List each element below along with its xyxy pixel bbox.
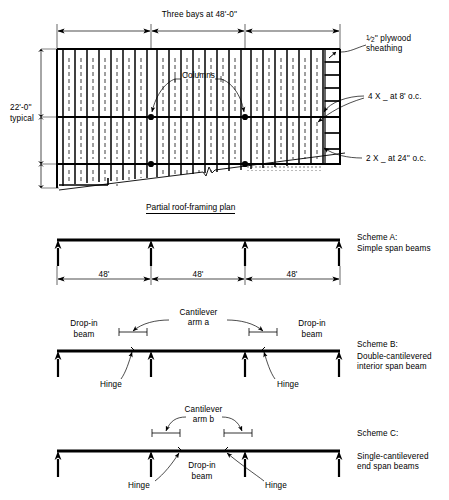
- plan-top-dimension: [57, 24, 340, 48]
- scheme-b-hinge-right-label: Hinge: [277, 380, 299, 391]
- scheme-b-description-line1: Double-cantilevered: [357, 352, 432, 363]
- scheme-c-description-line2: end span beams: [357, 462, 419, 473]
- sheathing-arrow-glyph: [329, 52, 336, 58]
- scheme-c-cantilever-label-line1: Cantilever: [175, 405, 232, 416]
- scheme-a-name: Scheme A:: [357, 233, 398, 244]
- plan-sheathing-panels: [325, 49, 340, 164]
- scheme-b-dropin-right-line2: beam: [290, 330, 334, 341]
- plywood-sheathing-label-line2: sheathing: [366, 44, 402, 55]
- scheme-b-cantilever-label-line1: Cantilever: [170, 308, 227, 319]
- scheme-c-name: Scheme C:: [357, 429, 398, 440]
- roof-framing-plan: [38, 24, 366, 190]
- scheme-b-cantilever-label-line2: arm a: [170, 318, 227, 329]
- scheme-c-cantilever-label-line2: arm b: [175, 415, 232, 426]
- scheme-c-description-line1: Single-cantilevered: [357, 452, 429, 463]
- plan-caption: Partial roof-framing plan: [146, 202, 235, 214]
- scheme-b-hinge-left-label: Hinge: [100, 380, 122, 391]
- scheme-b-dropin-left-line2: beam: [62, 330, 106, 341]
- scheme-b-description-line2: interior span beam: [357, 362, 427, 373]
- joist-spec-label: 2 X _ at 24'' o.c.: [366, 154, 426, 165]
- sheathing-unit-text: '' plywood: [375, 34, 411, 43]
- plan-top-dimension-label: Three bays at 48'-0'': [117, 10, 282, 21]
- scheme-c-dropin-line2: beam: [180, 472, 224, 483]
- figure-root: Three bays at 48'-0'' 22'-0'' typical Co…: [0, 0, 449, 500]
- plan-left-dimension-label-line1: 22'-0'': [10, 103, 44, 114]
- scheme-c-hinge-right-label: Hinge: [265, 481, 287, 492]
- plan-columns-label: Columns: [182, 71, 215, 82]
- scheme-c-cantilever-dims: [152, 429, 252, 437]
- scheme-b-dropin-left-line1: Drop-in: [62, 319, 106, 330]
- scheme-a-dim-2: 48': [178, 270, 218, 281]
- sheathing-leader: [341, 45, 366, 52]
- scheme-a-description: Simple span beams: [357, 244, 431, 255]
- scheme-c-dropin-line1: Drop-in: [180, 461, 224, 472]
- scheme-a-dim-1: 48': [84, 270, 124, 281]
- scheme-b-supports: [58, 359, 339, 377]
- scheme-c-hinge-left-label: Hinge: [128, 481, 150, 492]
- purlin-spec-label: 4 X _ at 8' o.c.: [368, 92, 422, 103]
- scheme-b-cantilever-dims: [119, 328, 277, 336]
- scheme-a-supports: [58, 248, 339, 266]
- scheme-b-dropin-right-line1: Drop-in: [290, 319, 334, 330]
- scheme-a-dim-3: 48': [272, 270, 312, 281]
- plan-columns: [148, 114, 248, 167]
- plan-close-joists: [248, 166, 320, 171]
- scheme-b-hinge-leaders: [121, 352, 275, 379]
- plan-left-dimension-label-line2: typical: [10, 114, 48, 125]
- scheme-b-name: Scheme B:: [357, 340, 398, 351]
